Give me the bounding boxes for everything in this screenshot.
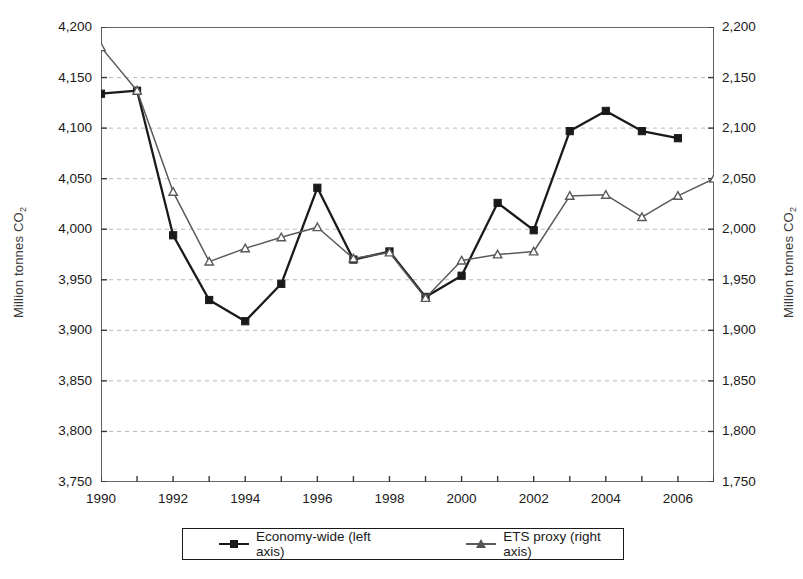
data-point-marker bbox=[278, 280, 285, 287]
data-point-marker bbox=[170, 232, 177, 239]
data-point-marker bbox=[169, 188, 177, 196]
plot-area bbox=[101, 27, 714, 482]
data-point-marker bbox=[602, 107, 609, 114]
right-axis-tick-label: 1,950 bbox=[722, 273, 786, 287]
right-axis-tick-label: 2,200 bbox=[722, 20, 786, 34]
left-axis-tick-label: 3,950 bbox=[28, 273, 92, 287]
left-axis-title: Million tonnes CO2 bbox=[11, 163, 26, 363]
x-axis-tick-label: 1990 bbox=[71, 492, 131, 506]
right-axis-tick-label: 1,850 bbox=[722, 374, 786, 388]
data-point-marker bbox=[206, 296, 213, 303]
triangle-marker-icon bbox=[466, 538, 496, 550]
right-axis-tick-label: 2,000 bbox=[722, 222, 786, 236]
data-point-marker bbox=[101, 90, 105, 97]
left-axis-tick-label: 3,850 bbox=[28, 374, 92, 388]
data-point-marker bbox=[638, 213, 646, 221]
x-axis-tick-label: 2004 bbox=[576, 492, 636, 506]
data-point-marker bbox=[101, 43, 105, 51]
data-point-marker bbox=[566, 128, 573, 135]
left-axis-tick-label: 3,750 bbox=[28, 475, 92, 489]
right-axis-tick-label: 1,800 bbox=[722, 424, 786, 438]
left-axis-tick-label: 4,050 bbox=[28, 172, 92, 186]
data-point-marker bbox=[242, 318, 249, 325]
data-point-marker bbox=[313, 223, 321, 231]
x-axis-tick-label: 2002 bbox=[504, 492, 564, 506]
x-axis-tick-label: 2000 bbox=[432, 492, 492, 506]
x-axis-tick-label: 1998 bbox=[360, 492, 420, 506]
chart-canvas bbox=[101, 27, 714, 482]
series-line-economy-wide bbox=[101, 91, 678, 322]
left-axis-tick-label: 3,900 bbox=[28, 323, 92, 337]
right-axis-tick-label: 2,150 bbox=[722, 71, 786, 85]
data-point-marker bbox=[674, 192, 682, 200]
data-point-marker bbox=[638, 128, 645, 135]
x-axis-tick-label: 1992 bbox=[143, 492, 203, 506]
x-axis-tick-label: 1994 bbox=[215, 492, 275, 506]
square-marker-icon bbox=[219, 538, 249, 550]
chart-figure: Million tonnes CO2 Million tonnes CO2 3,… bbox=[0, 0, 803, 579]
legend-item-economy-wide: Economy-wide (left axis) bbox=[219, 529, 392, 559]
series-line-ets-proxy bbox=[101, 47, 714, 298]
data-point-marker bbox=[530, 227, 537, 234]
left-axis-tick-label: 3,800 bbox=[28, 424, 92, 438]
data-point-marker bbox=[494, 199, 501, 206]
left-axis-tick-label: 4,000 bbox=[28, 222, 92, 236]
legend-label-economy-wide: Economy-wide (left axis) bbox=[256, 529, 392, 559]
x-axis-tick-label: 1996 bbox=[287, 492, 347, 506]
data-point-marker bbox=[458, 272, 465, 279]
x-axis-tick-label: 2006 bbox=[648, 492, 708, 506]
right-axis-tick-label: 1,900 bbox=[722, 323, 786, 337]
left-axis-tick-label: 4,100 bbox=[28, 121, 92, 135]
data-point-marker bbox=[314, 184, 321, 191]
left-axis-tick-label: 4,150 bbox=[28, 71, 92, 85]
right-axis-tick-label: 2,100 bbox=[722, 121, 786, 135]
chart-legend: Economy-wide (left axis) ETS proxy (righ… bbox=[182, 528, 624, 560]
right-axis-tick-label: 2,050 bbox=[722, 172, 786, 186]
legend-label-ets-proxy: ETS proxy (right axis) bbox=[503, 529, 623, 559]
legend-item-ets-proxy: ETS proxy (right axis) bbox=[466, 529, 623, 559]
left-axis-tick-label: 4,200 bbox=[28, 20, 92, 34]
right-axis-tick-label: 1,750 bbox=[722, 475, 786, 489]
data-point-marker bbox=[674, 135, 681, 142]
